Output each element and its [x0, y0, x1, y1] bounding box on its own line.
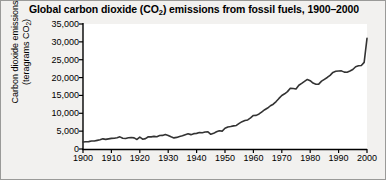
chart-figure: Global carbon dioxide (CO2) emissions fr…: [0, 0, 386, 180]
plot-area: [1, 1, 386, 180]
chart-svg: [1, 1, 386, 180]
plot-background: [83, 24, 367, 149]
